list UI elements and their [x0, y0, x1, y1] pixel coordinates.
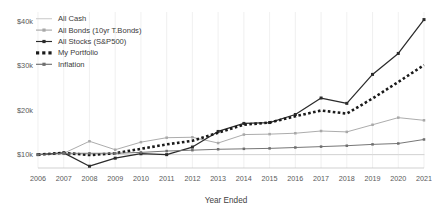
y-axis-tick-labels: $10k$20k$30k$40k: [17, 17, 33, 160]
series-marker: [165, 150, 168, 153]
legend-marker-icon: [42, 40, 45, 43]
series-marker: [320, 145, 323, 148]
series-marker: [397, 52, 400, 55]
series-marker: [371, 73, 374, 76]
series-marker: [217, 142, 220, 145]
series-line-inflation: [38, 139, 424, 154]
series-marker: [191, 146, 194, 149]
series-marker: [165, 153, 168, 156]
series-marker: [423, 119, 426, 122]
series-marker: [140, 151, 143, 154]
x-tick-label: 2021: [416, 174, 432, 183]
legend-marker-icon: [42, 29, 45, 32]
series-marker: [320, 97, 323, 100]
series-marker: [346, 131, 349, 134]
x-axis-title-label: Year Ended: [205, 196, 248, 205]
legend-label: My Portfolio: [58, 48, 98, 57]
series-marker: [294, 132, 297, 135]
series-marker: [346, 144, 349, 147]
chart-canvas: $10k$20k$30k$40k 20062007200820092010201…: [0, 0, 432, 221]
legend-label: All Stocks (S&P500): [58, 37, 127, 46]
x-tick-label: 2018: [339, 174, 355, 183]
series-marker: [268, 147, 271, 150]
series-marker: [371, 143, 374, 146]
series-marker: [423, 18, 426, 21]
series-marker: [397, 116, 400, 119]
x-tick-label: 2017: [313, 174, 329, 183]
series-marker: [165, 136, 168, 139]
series-marker: [114, 157, 117, 160]
x-tick-label: 2019: [365, 174, 381, 183]
x-tick-label: 2009: [107, 174, 123, 183]
series-marker: [88, 165, 91, 168]
legend-label: Inflation: [58, 60, 85, 69]
x-tick-label: 2007: [56, 174, 72, 183]
legend-marker-icon: [42, 63, 45, 66]
x-axis-tick-labels: 2006200720082009201020112012201320142015…: [30, 174, 432, 183]
x-tick-label: 2012: [184, 174, 200, 183]
x-tick-label: 2006: [30, 174, 46, 183]
legend-marker-icon: [48, 51, 51, 54]
series-marker: [88, 140, 91, 143]
x-tick-label: 2011: [159, 174, 174, 183]
x-tick-label: 2014: [236, 174, 252, 183]
series-line-my-portfolio: [38, 65, 424, 155]
legend-marker-icon: [36, 51, 39, 54]
y-tick-label: $40k: [17, 17, 33, 26]
series-marker: [140, 141, 143, 144]
series-marker: [191, 136, 194, 139]
legend-item[interactable]: All Bonds (10yr T.Bonds): [36, 26, 142, 35]
series-marker: [88, 152, 91, 155]
y-tick-label: $10k: [17, 150, 33, 159]
legend-label: All Cash: [58, 14, 86, 23]
x-tick-label: 2013: [210, 174, 226, 183]
series-marker: [114, 148, 117, 151]
series-marker: [294, 146, 297, 149]
series-marker: [397, 142, 400, 145]
series-marker: [371, 124, 374, 127]
series-marker: [62, 152, 64, 155]
investment-growth-chart: $10k$20k$30k$40k 20062007200820092010201…: [0, 0, 432, 221]
legend-item[interactable]: All Stocks (S&P500): [36, 37, 127, 46]
series-marker: [345, 102, 348, 105]
x-tick-label: 2015: [262, 174, 278, 183]
series-marker: [243, 148, 246, 151]
legend-item[interactable]: All Cash: [36, 14, 86, 23]
y-tick-label: $20k: [17, 106, 33, 115]
series-marker: [37, 153, 40, 156]
legend-item[interactable]: Inflation: [36, 60, 85, 69]
legend-item[interactable]: My Portfolio: [36, 48, 98, 57]
series-marker: [191, 149, 194, 152]
x-tick-label: 2020: [390, 174, 406, 183]
legend-marker-icon: [42, 51, 45, 54]
x-tick-label: 2008: [81, 174, 97, 183]
x-axis-title: Year Ended: [205, 196, 248, 205]
series-marker: [268, 133, 271, 136]
series-marker: [320, 130, 323, 133]
chart-legend: All CashAll Bonds (10yr T.Bonds)All Stoc…: [36, 14, 142, 69]
x-tick-label: 2016: [287, 174, 303, 183]
series-marker: [114, 152, 117, 155]
y-tick-label: $30k: [17, 61, 33, 70]
legend-label: All Bonds (10yr T.Bonds): [58, 26, 142, 35]
x-tick-label: 2010: [133, 174, 149, 183]
series-marker: [423, 138, 426, 141]
series-marker: [243, 133, 246, 136]
series-marker: [217, 148, 220, 151]
